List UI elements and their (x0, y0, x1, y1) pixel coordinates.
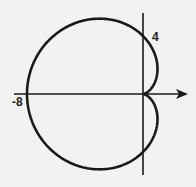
label-x-intercept: -8 (12, 95, 23, 109)
label-y-intercept: 4 (152, 30, 159, 44)
cardioid-figure: 4 -8 (0, 0, 196, 187)
